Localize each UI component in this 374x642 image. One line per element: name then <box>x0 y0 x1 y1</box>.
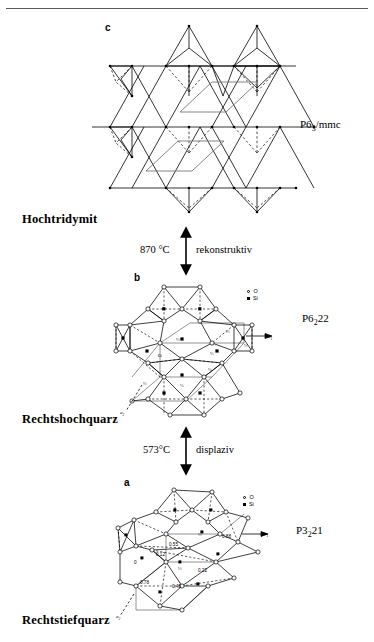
space-group-tridymite: P63/mmc <box>300 118 341 133</box>
legend-row-silicon-a: Si <box>243 501 254 508</box>
height-label-b-4: O <box>158 353 162 358</box>
axis-label-a1-low-quartz: a1 <box>264 531 268 538</box>
transition-mechanism-displaziv: displaziv <box>196 444 234 455</box>
space-group-high-quartz: P6222 <box>302 312 329 327</box>
space-group-b-main: P6 <box>302 312 314 324</box>
axis-a2-sub-b: 2 <box>123 413 125 417</box>
height-label-b-3: ⅓ <box>244 343 248 348</box>
silicon-square-icon <box>247 297 250 300</box>
legend-row-silicon: Si <box>247 295 258 302</box>
coord-label-a-1: 0.12 <box>156 552 165 557</box>
height-label-a-1: ⅓ <box>178 566 182 571</box>
legend-label-silicon: Si <box>253 295 258 303</box>
legend-low-quartz: O Si <box>243 494 254 508</box>
oxygen-circle-icon <box>247 290 250 293</box>
height-label-b-1: ⅓ <box>226 329 230 334</box>
height-label-b-2: ⅓ <box>210 351 214 356</box>
silicon-square-icon-a <box>243 503 246 506</box>
space-group-b-rest: 22 <box>318 312 329 324</box>
coord-label-a-4: 0.45 <box>172 584 181 589</box>
transition-mechanism-rekonstruktiv: rekonstruktiv <box>196 244 252 255</box>
axis-a2-sub-a: 2 <box>119 617 121 621</box>
figure-page: c <box>0 0 374 642</box>
structure-diagram-high-quartz: ⅓ ⅓ ⅓ ⅓ O ⅓ ⅓ ⅓ <box>112 281 272 421</box>
legend-label-silicon-a: Si <box>249 501 254 509</box>
axis-label-a2-high-quartz: a2 <box>120 410 124 417</box>
coord-label-a-6: 0 <box>134 560 137 565</box>
space-group-low-quartz: P3221 <box>296 524 323 539</box>
space-group-tridymite-rest: /mmc <box>316 118 341 130</box>
phase-name-rechtshochquarz: Rechtshochquarz <box>22 412 118 427</box>
transition-temperature-573: 573°C <box>143 444 170 455</box>
axis-a1-sub-a: 1 <box>267 534 269 538</box>
height-label-b-7: ⅓ <box>208 367 212 372</box>
axis-label-a2-low-quartz: a2 <box>116 614 120 621</box>
space-group-a-rest: 21 <box>312 524 323 536</box>
phase-name-hochtridymit: Hochtridymit <box>22 212 97 227</box>
height-label-b-0: ⅓ <box>176 337 180 342</box>
height-label-a-0: ⅓ <box>198 532 202 537</box>
axis-a1-sub-b: 1 <box>271 337 273 341</box>
transition-arrow-high-low-quartz <box>178 428 194 474</box>
transition-temperature-870: 870 °C <box>140 244 170 255</box>
oxygen-circle-icon-a <box>243 496 246 499</box>
coord-label-a-3: 0.22 <box>198 568 207 573</box>
header-rule <box>6 8 368 9</box>
space-group-a-main: P3 <box>296 524 308 536</box>
axis-label-a1-high-quartz: a1 <box>268 334 272 341</box>
height-label-b-6: ⅓ <box>180 383 184 388</box>
legend-high-quartz: O Si <box>247 288 258 302</box>
coord-label-a-0: 0.55 <box>169 542 178 547</box>
height-label-b-5: ⅓ <box>143 381 147 386</box>
coord-label-a-5: 0.78 <box>140 580 149 585</box>
structure-diagram-tridymite <box>88 26 318 212</box>
transition-arrow-tridymite-quartz <box>178 228 194 274</box>
coord-label-a-2: 0.88 <box>222 534 231 539</box>
space-group-tridymite-main: P6 <box>300 118 312 130</box>
phase-name-rechtstiefquarz: Rechtstiefquarz <box>22 613 110 628</box>
